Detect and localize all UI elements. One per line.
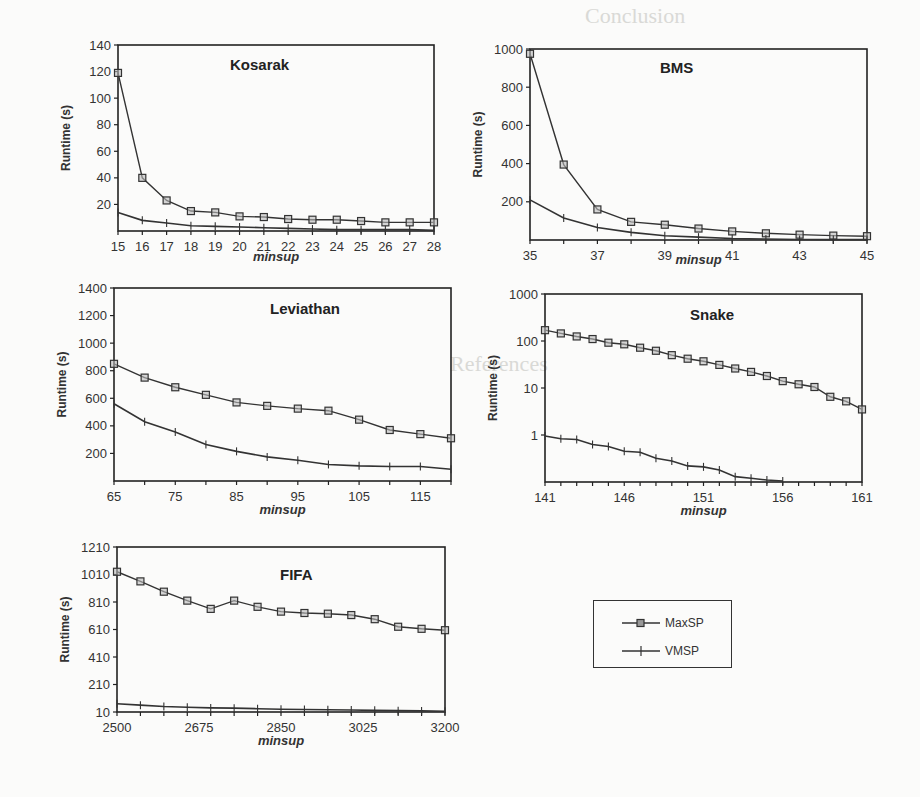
x-tick-label: 3200 xyxy=(431,720,460,735)
chart-title: BMS xyxy=(660,59,693,76)
y-tick-label: 1400 xyxy=(78,281,107,296)
y-tick-label: 10 xyxy=(524,381,538,396)
plot-frame xyxy=(530,49,867,240)
y-tick-label: 610 xyxy=(88,622,110,637)
y-tick-label: 80 xyxy=(97,117,111,132)
y-tick-label: 800 xyxy=(85,363,107,378)
chart-title: Leviathan xyxy=(270,300,340,317)
y-tick-label: 210 xyxy=(88,677,110,692)
x-tick-label: 20 xyxy=(232,239,246,254)
series-maxsp xyxy=(527,50,871,239)
x-tick-label: 35 xyxy=(523,248,537,263)
chart-panel-snake: 1101001000141146151156161Runtime (s)mins… xyxy=(486,287,873,519)
y-axis-label: Runtime (s) xyxy=(55,351,69,417)
y-axis-label: Runtime (s) xyxy=(486,355,500,421)
y-tick-label: 1210 xyxy=(81,540,110,555)
y-tick-label: 140 xyxy=(89,38,111,53)
x-tick-label: 2675 xyxy=(185,720,214,735)
y-axis-label: Runtime (s) xyxy=(59,105,73,171)
x-tick-label: 27 xyxy=(402,239,416,254)
y-tick-label: 1000 xyxy=(78,336,107,351)
y-tick-label: 600 xyxy=(85,391,107,406)
x-tick-label: 75 xyxy=(168,489,182,504)
y-tick-label: 200 xyxy=(501,194,523,209)
chart-title: Snake xyxy=(690,306,734,323)
x-tick-label: 45 xyxy=(860,248,874,263)
y-tick-label: 10 xyxy=(96,705,110,720)
y-axis-label: Runtime (s) xyxy=(58,596,72,662)
x-tick-label: 25 xyxy=(354,239,368,254)
y-tick-label: 1200 xyxy=(78,308,107,323)
chart-panel-bms: 2004006008001000353739414345Runtime (s)m… xyxy=(471,42,874,268)
chart-panel-leviathan: 20040060080010001200140065758595105115Ru… xyxy=(55,281,455,518)
y-tick-label: 810 xyxy=(88,595,110,610)
x-axis-label: minsup xyxy=(258,733,304,748)
x-axis-label: minsup xyxy=(675,252,721,267)
chart-title: Kosarak xyxy=(230,56,290,73)
y-tick-label: 600 xyxy=(501,118,523,133)
legend-item-maxsp: MaxSP xyxy=(622,615,704,631)
x-tick-label: 65 xyxy=(107,489,121,504)
x-tick-label: 85 xyxy=(229,489,243,504)
y-tick-label: 1000 xyxy=(509,287,538,302)
plus-marker-icon xyxy=(622,645,660,657)
x-tick-label: 141 xyxy=(534,490,556,505)
x-axis-label: minsup xyxy=(680,503,726,518)
y-axis-label: Runtime (s) xyxy=(471,111,485,177)
y-tick-label: 200 xyxy=(85,446,107,461)
x-tick-label: 2500 xyxy=(103,720,132,735)
x-tick-label: 18 xyxy=(184,239,198,254)
series-vmsp xyxy=(530,196,867,244)
x-tick-label: 43 xyxy=(792,248,806,263)
x-tick-label: 115 xyxy=(410,489,431,504)
x-tick-label: 41 xyxy=(725,248,739,263)
y-tick-label: 800 xyxy=(501,80,523,95)
x-tick-label: 23 xyxy=(305,239,319,254)
chart-title: FIFA xyxy=(280,566,313,583)
chart-panel-fifa: 1021041061081010101210250026752850302532… xyxy=(58,540,459,749)
x-tick-label: 19 xyxy=(208,239,222,254)
legend-label-vmsp: VMSP xyxy=(665,644,699,658)
series-vmsp xyxy=(545,432,783,485)
x-tick-label: 146 xyxy=(613,490,635,505)
x-tick-label: 3025 xyxy=(349,720,378,735)
legend-item-vmsp: VMSP xyxy=(622,643,699,659)
x-tick-label: 105 xyxy=(348,489,370,504)
x-tick-label: 37 xyxy=(590,248,604,263)
y-tick-label: 400 xyxy=(85,418,107,433)
y-tick-label: 410 xyxy=(88,650,110,665)
x-tick-label: 156 xyxy=(772,490,794,505)
y-tick-label: 100 xyxy=(89,91,111,106)
chart-figure: 2040608010012014015161718192021222324252… xyxy=(0,0,920,797)
series-vmsp xyxy=(117,700,445,715)
legend: MaxSP VMSP xyxy=(593,600,732,668)
y-tick-label: 120 xyxy=(89,64,111,79)
y-tick-label: 1000 xyxy=(494,42,523,57)
chart-panel-kosarak: 2040608010012014015161718192021222324252… xyxy=(59,38,441,265)
y-tick-label: 20 xyxy=(97,197,111,212)
x-tick-label: 15 xyxy=(111,239,125,254)
x-tick-label: 17 xyxy=(159,239,173,254)
series-maxsp xyxy=(542,327,866,413)
series-vmsp xyxy=(114,400,451,473)
x-tick-label: 28 xyxy=(427,239,441,254)
y-tick-label: 1010 xyxy=(81,567,110,582)
x-axis-label: minsup xyxy=(259,502,305,517)
legend-label-maxsp: MaxSP xyxy=(665,616,704,630)
x-tick-label: 39 xyxy=(658,248,672,263)
x-axis-label: minsup xyxy=(253,249,299,264)
x-tick-label: 24 xyxy=(330,239,344,254)
y-tick-label: 40 xyxy=(97,170,111,185)
series-maxsp xyxy=(115,69,438,225)
square-marker-icon xyxy=(622,617,660,629)
y-tick-label: 60 xyxy=(97,144,111,159)
y-tick-label: 100 xyxy=(516,334,538,349)
x-tick-label: 26 xyxy=(378,239,392,254)
x-tick-label: 161 xyxy=(851,490,873,505)
y-tick-label: 400 xyxy=(501,156,523,171)
x-tick-label: 16 xyxy=(135,239,149,254)
series-maxsp xyxy=(111,360,455,441)
y-tick-label: 1 xyxy=(531,428,538,443)
